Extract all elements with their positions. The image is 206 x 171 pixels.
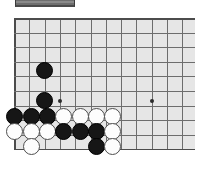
board-grid-line-horizontal (14, 47, 195, 48)
black-stone[interactable] (6, 108, 23, 125)
board-grid-line-vertical (121, 18, 122, 150)
black-stone[interactable] (39, 108, 56, 125)
white-stone[interactable] (88, 108, 105, 125)
board-grid-line-horizontal (14, 33, 195, 34)
white-stone[interactable] (6, 123, 23, 140)
truncated-toolbar[interactable] (15, 0, 75, 7)
white-stone[interactable] (72, 108, 89, 125)
black-stone[interactable] (36, 92, 53, 109)
white-stone[interactable] (104, 138, 121, 155)
white-stone[interactable] (39, 123, 56, 140)
star-point-right (150, 99, 154, 103)
board-grid-line-vertical (182, 18, 183, 150)
black-stone[interactable] (88, 138, 105, 155)
board-grid-line-vertical (136, 18, 137, 150)
star-point-left (58, 99, 62, 103)
black-stone[interactable] (36, 62, 53, 79)
black-stone[interactable] (55, 123, 72, 140)
white-stone[interactable] (23, 138, 40, 155)
white-stone[interactable] (104, 108, 121, 125)
white-stone[interactable] (55, 108, 72, 125)
black-stone[interactable] (23, 108, 40, 125)
board-grid-line-vertical (152, 18, 153, 150)
toolbar-highlight (16, 1, 74, 3)
black-stone[interactable] (72, 123, 89, 140)
board-edge-line-horizontal (14, 18, 195, 20)
board-grid-line-vertical (167, 18, 168, 150)
go-board-screenshot (0, 0, 206, 171)
